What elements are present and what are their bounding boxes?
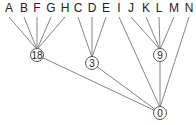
edge-L-9 (159, 17, 160, 50)
edge-M-9 (160, 17, 174, 50)
leaf-label-M: M (169, 1, 179, 15)
edge-C-3 (78, 17, 92, 58)
leaf-label-I: I (117, 1, 120, 15)
leaf-label-H: H (61, 1, 70, 15)
edge-I-0 (119, 17, 160, 108)
edge-B-18 (24, 17, 37, 50)
leaf-label-B: B (20, 1, 28, 15)
leaf-label-D: D (88, 1, 97, 15)
node-label: 0 (157, 108, 163, 119)
edge-J-9 (131, 17, 160, 50)
leaf-label-E: E (102, 1, 110, 15)
edge-3-0 (92, 63, 160, 113)
tree-leaves: ABFGHCDEIJKLMN (5, 1, 193, 15)
edge-G-18 (37, 17, 51, 50)
edge-H-18 (37, 17, 65, 50)
node-label: 3 (89, 58, 95, 69)
leaf-label-N: N (185, 1, 194, 15)
leaf-label-J: J (128, 1, 134, 15)
node-label: 18 (31, 50, 43, 61)
leaf-label-L: L (156, 1, 163, 15)
leaf-label-G: G (46, 1, 55, 15)
leaf-label-K: K (142, 1, 150, 15)
node-9: 9 (154, 49, 167, 62)
leaf-label-C: C (74, 1, 83, 15)
edge-E-3 (92, 17, 106, 58)
edge-A-18 (9, 17, 37, 50)
leaf-label-F: F (33, 1, 40, 15)
leaf-label-A: A (5, 1, 13, 15)
node-18: 18 (31, 49, 44, 62)
tree-edges (9, 17, 189, 113)
node-label: 9 (157, 50, 163, 61)
tree-diagram: 18390 ABFGHCDEIJKLMN (0, 0, 196, 125)
node-0: 0 (154, 107, 167, 120)
node-3: 3 (86, 57, 99, 70)
edge-K-9 (146, 17, 160, 50)
edge-N-0 (160, 17, 189, 108)
